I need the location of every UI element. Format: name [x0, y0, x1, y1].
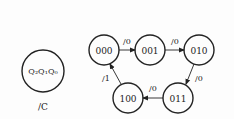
transition-label: /0: [195, 74, 203, 83]
state-node-000: 000: [89, 35, 119, 65]
legend-state-node: Q₂Q₁Q₀: [22, 50, 64, 92]
state-label: 001: [141, 46, 158, 56]
state-label: 010: [190, 46, 207, 56]
state-label: 000: [95, 46, 112, 56]
state-node-010: 010: [184, 35, 214, 65]
state-node-011: 011: [163, 83, 193, 113]
transition-010-011: /0: [186, 64, 203, 84]
transition-label: /0: [123, 37, 131, 46]
legend-state-label: Q₂Q₁Q₀: [28, 67, 57, 76]
transition-label: /1: [102, 74, 110, 83]
state-label: 011: [169, 94, 186, 104]
transition-label: /0: [149, 84, 157, 93]
state-node-100: 100: [113, 83, 143, 113]
transition-label: /0: [171, 37, 179, 46]
legend-output-label: /C: [38, 102, 48, 112]
transition-000-001: /0: [119, 37, 135, 50]
state-node-001: 001: [135, 35, 165, 65]
state-diagram: Q₂Q₁Q₀ /C 000 001 010 011 100 /0 /0 /0 /…: [0, 0, 234, 119]
transition-001-010: /0: [165, 37, 184, 50]
transition-100-000: /1: [102, 64, 121, 84]
transition-011-100: /0: [143, 84, 163, 98]
state-label: 100: [119, 94, 136, 104]
